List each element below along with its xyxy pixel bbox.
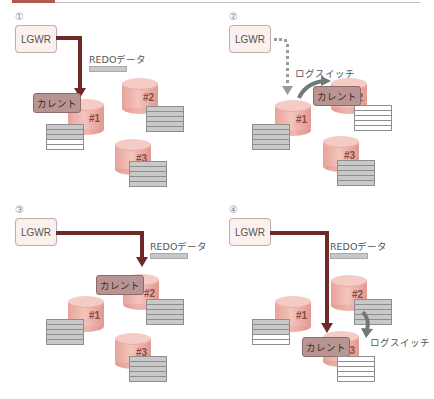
- log-switch-label: ログスイッチ: [370, 335, 430, 349]
- group-tag: #2: [143, 92, 154, 103]
- log-group-1-members: [252, 124, 290, 150]
- lgwr-process-box: LGWR: [229, 25, 271, 53]
- panel-step-4: ④ LGWR REDOデータ #2 ログスイッチ #1 #3 カレント: [217, 200, 434, 399]
- redo-data-bar: [150, 253, 188, 259]
- group-tag: #1: [89, 113, 100, 124]
- panel-step-3: ③ LGWR REDOデータ #2 カレント #1 #3: [0, 200, 217, 399]
- redo-data-label: REDOデータ: [89, 52, 146, 66]
- log-group-2-members: [354, 105, 392, 131]
- group-tag: #1: [296, 114, 307, 125]
- current-group-label: カレント: [33, 93, 81, 113]
- write-arrow-vertical: [140, 231, 144, 258]
- log-group-1-members: [46, 319, 84, 345]
- log-group-3-members: [337, 160, 375, 186]
- write-arrow-horizontal: [56, 231, 144, 235]
- group-tag: #1: [296, 310, 307, 321]
- arrowhead-down-icon: [282, 86, 293, 95]
- log-group-1-members: [252, 319, 290, 345]
- group-tag: #1: [89, 310, 100, 321]
- step-number: ②: [229, 11, 238, 22]
- lgwr-process-box: LGWR: [15, 25, 57, 53]
- step-number: ④: [229, 204, 238, 215]
- log-group-3-members: [129, 161, 167, 187]
- redo-data-label: REDOデータ: [150, 239, 207, 253]
- panel-step-1: ① LGWR REDOデータ #2 #1 カレント #3: [0, 0, 217, 200]
- write-arrow-vertical: [78, 36, 82, 90]
- redo-data-bar: [330, 253, 368, 259]
- current-group-label: カレント: [96, 275, 144, 295]
- lgwr-process-box: LGWR: [229, 218, 271, 246]
- write-arrow-horizontal: [270, 231, 329, 235]
- panel-step-2: ② LGWR ログスイッチ #2 #1 カレント #3: [217, 0, 434, 200]
- step-number: ①: [15, 11, 24, 22]
- log-group-2-members: [146, 299, 184, 325]
- current-group-label: カレント: [302, 337, 350, 357]
- log-group-3-members: [129, 356, 167, 382]
- write-arrow-vertical: [325, 231, 329, 325]
- redo-data-label: REDOデータ: [330, 239, 387, 253]
- log-group-3-members: [337, 356, 375, 382]
- log-group-2-members: [146, 106, 184, 132]
- arrowhead-down-icon: [136, 257, 148, 267]
- current-group-label: カレント: [313, 86, 361, 106]
- step-number: ③: [15, 204, 24, 215]
- group-tag: #2: [144, 288, 155, 299]
- redo-data-bar: [89, 66, 127, 72]
- lgwr-process-box: LGWR: [15, 218, 57, 246]
- log-group-1-members: [46, 124, 84, 150]
